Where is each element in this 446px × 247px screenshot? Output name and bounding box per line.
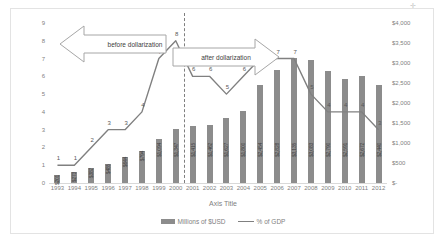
x-axis: 1993199419951996199719981999200020012002… [49,185,387,197]
line-value-label: 4 [141,102,144,108]
chart-screenshot: ✛ 0123456789 $-$500$1,000$1,500$2,000$2,… [0,0,446,247]
x-axis-tick: 2006 [270,185,283,191]
legend-item-bar[interactable]: Millions of $USD [161,218,226,225]
y-right-tick: $3,000 [392,60,410,66]
y-left-tick: 2 [42,144,45,150]
chart-legend: Millions of $USD % of GDP [11,218,435,225]
line-value-label: 4 [344,102,347,108]
y-right-tick: $4,000 [392,20,410,26]
y-right-tick: $- [392,180,397,186]
y-left-tick: 8 [42,38,45,44]
line-value-label: 5 [226,84,229,90]
y-right-tick: $1,500 [392,120,410,126]
category-axis-line [49,183,387,184]
x-axis-tick: 1997 [118,185,131,191]
x-axis-tick: 2010 [338,185,351,191]
legend-swatch-bar-icon [161,219,175,224]
legend-label-bar: Millions of $USD [178,218,226,225]
line-value-label: 1 [57,155,60,161]
x-axis-title: Axis Title [11,200,435,207]
x-axis-tick: 2012 [372,185,385,191]
legend-label-line: % of GDP [257,218,286,225]
y-left-tick: 3 [42,127,45,133]
chart-frame: 0123456789 $-$500$1,000$1,500$2,000$2,50… [10,8,434,234]
y-right-tick: $2,000 [392,100,410,106]
x-axis-tick: 2011 [355,185,368,191]
y-left-tick: 7 [42,56,45,62]
x-axis-tick: 2003 [220,185,233,191]
x-axis-tick: 2000 [169,185,182,191]
x-axis-tick: 1993 [51,185,64,191]
x-axis-tick: 1996 [101,185,114,191]
line-value-label: 5 [310,84,313,90]
y-left-tick: 9 [42,20,45,26]
legend-swatch-line-icon [238,221,254,222]
line-value-label: 4 [361,102,364,108]
annotation-after-dollarization: after dollarization [171,37,281,77]
x-axis-tick: 2004 [237,185,250,191]
legend-item-line[interactable]: % of GDP [238,218,286,225]
line-value-label: 1 [74,155,77,161]
line-value-label: 3 [378,120,381,126]
line-value-label: 2 [91,137,94,143]
x-axis-tick: 2009 [321,185,334,191]
line-value-label: 4 [327,102,330,108]
y-right-tick: $2,500 [392,80,410,86]
x-axis-tick: 1994 [68,185,81,191]
line-value-label: 3 [107,120,110,126]
y-left-tick: 6 [42,73,45,79]
y-right-tick: $500 [392,160,405,166]
y-left-tick: 0 [42,180,45,186]
x-axis-tick: 1999 [152,185,165,191]
x-axis-tick: 2001 [186,185,199,191]
x-axis-tick: 2007 [287,185,300,191]
y-left-tick: 5 [42,91,45,97]
annotation-before-dollarization: before dollarization [58,24,168,64]
y-left-tick: 4 [42,109,45,115]
y-left-tick: 1 [42,162,45,168]
line-value-label: 3 [124,120,127,126]
x-axis-tick: 1995 [85,185,98,191]
annotation-after-label: after dollarization [171,37,303,77]
y-right-tick: $3,500 [392,40,410,46]
x-axis-tick: 2008 [304,185,317,191]
x-axis-tick: 2005 [254,185,267,191]
y-right-tick: $1,000 [392,140,410,146]
x-axis-tick: 1998 [135,185,148,191]
x-axis-tick: 2002 [203,185,216,191]
